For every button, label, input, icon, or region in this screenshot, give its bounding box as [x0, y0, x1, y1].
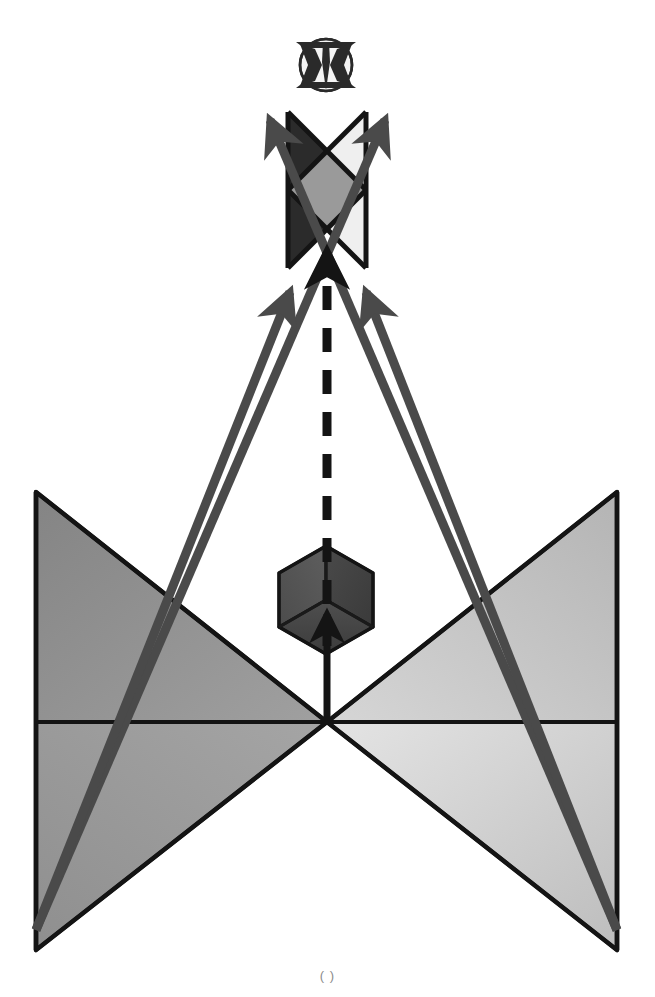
emblem-bottom-flange-icon: [296, 82, 356, 88]
bottom-caption: ( ): [0, 968, 655, 983]
diagram-canvas: [0, 0, 655, 997]
emblem-top-flange-icon: [296, 42, 356, 48]
circular-winged-emblem: [296, 39, 356, 91]
figure-root: ( ): [0, 0, 655, 997]
